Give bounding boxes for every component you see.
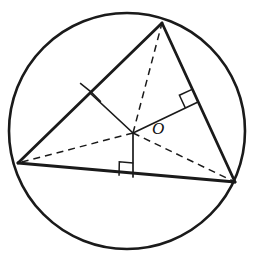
geometry-figure: O: [0, 0, 254, 255]
perpendicular-bisectors: [90, 93, 198, 177]
right-angle-marks: [80, 83, 192, 176]
circumcenter-label: O: [152, 120, 164, 137]
bisector-to-AB: [90, 93, 133, 133]
radius-OB: [133, 23, 162, 133]
circumcircle: [9, 13, 245, 249]
triangle: [18, 23, 235, 182]
circumradii: [18, 23, 235, 182]
bisector-to-BC: [133, 102, 198, 133]
geometry-canvas: [0, 0, 254, 255]
